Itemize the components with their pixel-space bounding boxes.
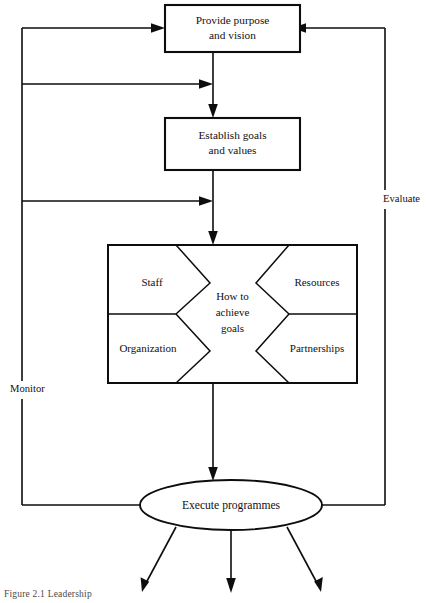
left-branch-to-spine-upper <box>22 79 213 89</box>
how-to-achieve-label-line1: How to <box>216 290 249 302</box>
execute-output-arrows <box>141 527 323 593</box>
node-provide-purpose-and-vision: Provide purpose and vision <box>165 5 300 52</box>
quadrant-label-organization: Organization <box>119 342 177 354</box>
node-execute-programmes: Execute programmes <box>140 480 322 530</box>
leadership-flow-diagram: Provide purpose and vision Establish goa… <box>0 0 426 603</box>
diagram-canvas: Provide purpose and vision Establish goa… <box>0 0 426 603</box>
left-branch-to-spine-lower <box>22 196 213 206</box>
arrowhead-into-execute <box>208 467 218 481</box>
feedback-label-monitor: Monitor <box>10 383 45 394</box>
quadrant-label-staff: Staff <box>141 276 163 288</box>
spine-bigbox-to-ellipse <box>208 383 218 481</box>
arrowhead-into-establish-goals <box>208 104 218 118</box>
figure-caption: Figure 2.1 Leadership <box>4 589 92 599</box>
how-to-achieve-label-line2: achieve <box>216 306 250 318</box>
establish-goals-label-line1: Establish goals <box>198 129 266 141</box>
arrowhead-into-spine-lower <box>199 196 213 206</box>
output-arrow-right-line <box>287 527 317 583</box>
spine-establish-to-bigbox <box>208 170 218 245</box>
provide-purpose-label-line1: Provide purpose <box>196 14 270 26</box>
quadrant-label-partnerships: Partnerships <box>290 342 344 354</box>
quadrant-label-resources: Resources <box>294 276 339 288</box>
establish-goals-label-line2: and values <box>209 144 257 156</box>
output-arrow-left-line <box>146 527 176 583</box>
node-how-to-achieve-goals: Staff Organization Resources Partnership… <box>108 245 357 383</box>
arrowhead-into-how-to-achieve <box>208 231 218 245</box>
provide-purpose-label-line2: and vision <box>209 29 256 41</box>
arrowhead-into-spine-upper <box>199 79 213 89</box>
arrowhead-into-provide-purpose-left <box>151 23 165 33</box>
node-establish-goals-and-values: Establish goals and values <box>165 118 300 170</box>
left-branch-to-provide-purpose <box>22 23 165 33</box>
feedback-label-evaluate: Evaluate <box>383 193 420 204</box>
execute-programmes-label: Execute programmes <box>182 499 281 512</box>
arrowhead-output-center <box>226 578 236 593</box>
how-to-achieve-label-line3: goals <box>221 322 244 334</box>
